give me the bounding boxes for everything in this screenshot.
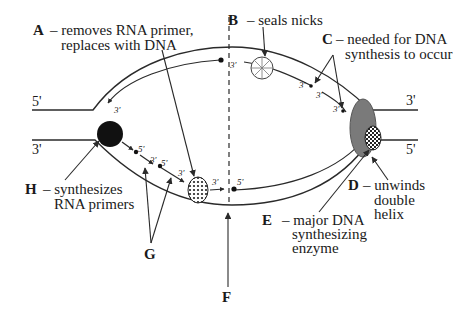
- strand-end-left-bottom: 3': [32, 142, 42, 157]
- label-h: H – synthesizes RNA primers: [25, 181, 135, 212]
- strand-end-right-bottom: 5': [406, 142, 416, 157]
- small-end-label: 3': [229, 60, 238, 70]
- small-end-label: 3': [211, 177, 220, 187]
- daughter-strands: [108, 60, 366, 190]
- label-letter: C: [322, 31, 333, 47]
- label-text: – needed for DNA: [335, 31, 447, 47]
- small-end-label: 3': [332, 104, 341, 114]
- label-f: F: [222, 289, 231, 305]
- strand-end-right-top: 3': [406, 93, 416, 108]
- small-end-label: 3': [113, 105, 122, 115]
- label-letter: E: [262, 212, 272, 228]
- label-a: A – removes RNA primer, replaces with DN…: [33, 22, 194, 53]
- label-c: C – needed for DNA synthesis to occur: [322, 31, 452, 62]
- label-letter: A: [33, 22, 44, 38]
- bottom-left-fragment: [122, 142, 133, 150]
- dna-polymerase-iii-icon: [365, 126, 381, 150]
- small-end-label: 3': [298, 80, 307, 90]
- label-text: enzyme: [292, 240, 339, 256]
- ligase-icon: [251, 57, 273, 79]
- replication-fork-diagram: 5' 3' 3' 5' 3' 3' 3' 3' 3' 5' 3' 5' 3' 3…: [0, 0, 468, 320]
- label-text: – synthesizes: [42, 181, 123, 197]
- label-text: – unwinds: [362, 177, 425, 193]
- label-letter: B: [228, 12, 238, 28]
- bottom-right-daughter: [234, 137, 366, 190]
- small-end-label: 5': [237, 177, 245, 187]
- label-text: – seals nicks: [246, 12, 323, 28]
- small-end-label: 3': [177, 168, 186, 178]
- label-text: synthesis to occur: [345, 46, 452, 62]
- label-text: replaces with DNA: [61, 37, 177, 53]
- label-b: B – seals nicks: [228, 12, 323, 28]
- strand-end-left-top: 5': [32, 94, 42, 109]
- after-a-fragment: [210, 189, 224, 190]
- top-daughter-strand: [108, 60, 220, 103]
- label-letter: H: [25, 181, 37, 197]
- label-text: – removes RNA primer,: [49, 22, 194, 38]
- label-text: RNA primers: [54, 196, 135, 212]
- label-g: G: [144, 246, 156, 262]
- fragment-dots: [134, 57, 345, 191]
- small-end-label: 5': [138, 144, 146, 154]
- small-end-label: 5': [161, 158, 169, 168]
- small-end-label: 3': [149, 155, 158, 165]
- dna-polymerase-i-icon: [188, 177, 208, 203]
- label-letter: D: [348, 177, 359, 193]
- small-end-label: 3': [315, 90, 324, 100]
- label-e: E – major DNA synthesizing enzyme: [262, 212, 367, 256]
- primase-icon: [97, 121, 123, 147]
- label-text: helix: [374, 206, 404, 222]
